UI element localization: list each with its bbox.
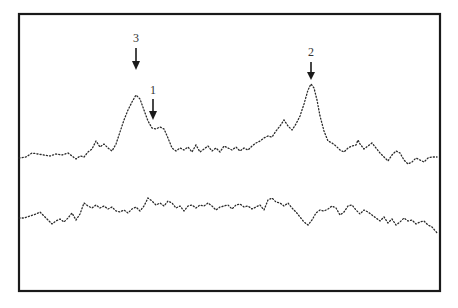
peak-label-1: 1 — [150, 83, 156, 97]
plot-frame — [19, 14, 440, 291]
arrow-head-icon — [307, 72, 315, 80]
peak-label-2: 2 — [308, 45, 314, 59]
arrow-head-icon — [132, 61, 140, 70]
upper-trace — [19, 84, 437, 164]
arrow-head-icon — [149, 111, 157, 120]
peak-annotation-2: 2 — [307, 45, 315, 80]
spectrum-figure: 3 1 2 — [0, 0, 458, 308]
peak-annotation-1: 1 — [149, 83, 157, 120]
peak-label-3: 3 — [133, 31, 139, 45]
lower-trace — [19, 198, 438, 234]
peak-annotation-3: 3 — [132, 31, 140, 70]
